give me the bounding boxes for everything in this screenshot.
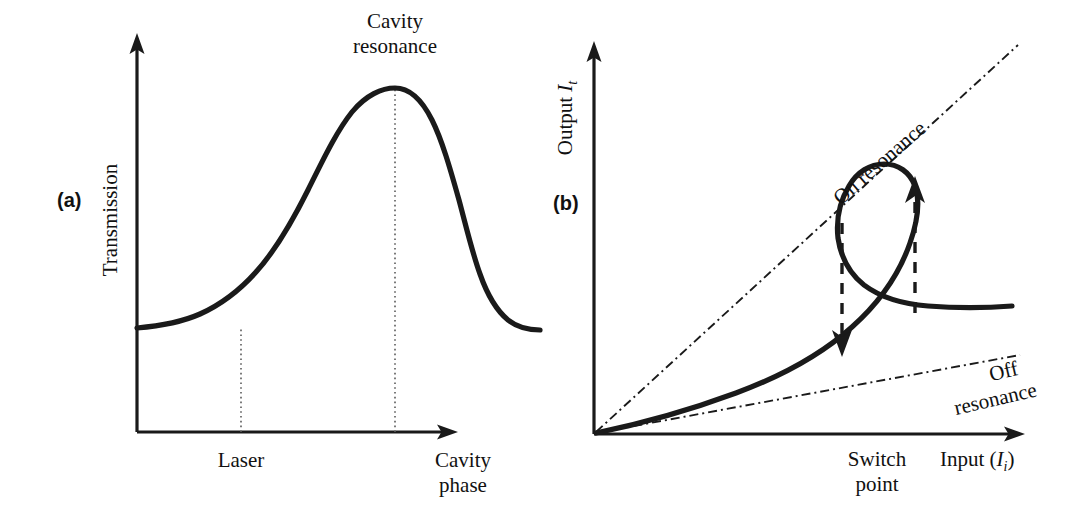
panel-b-y-axis-label: Output It	[553, 80, 580, 156]
panel-b-x-axis-label: Input (Ii)	[940, 447, 1014, 474]
panel-a-marker-laser-label: Laser	[218, 448, 265, 472]
panel-b: (b) Output It On resonance Off resonance…	[553, 41, 1039, 496]
panel-b-switch-point-label-line2: point	[855, 472, 898, 496]
panel-a-transmission-curve	[137, 88, 540, 330]
svg-text:Output It: Output It	[553, 80, 580, 156]
panel-b-on-resonance-reference-line	[596, 45, 1018, 432]
panel-a-x-axis-label-line1: Cavity	[435, 448, 491, 472]
panel-a-x-axis-label-line2: phase	[439, 473, 487, 497]
panel-b-tag: (b)	[553, 192, 579, 214]
panel-b-y-axis-label-subscript: t	[565, 80, 580, 85]
panel-a-tag: (a)	[57, 189, 81, 211]
panel-a-annotation-line1: Cavity	[367, 9, 423, 33]
panel-b-off-resonance-label: Off resonance	[946, 353, 1039, 420]
panel-b-x-axis-label-close: )	[1007, 447, 1014, 471]
panel-b-y-axis-label-text: Output	[553, 97, 577, 156]
panel-b-off-resonance-reference-line	[596, 355, 1020, 433]
panel-a-annotation-line2: resonance	[353, 34, 437, 58]
panel-a: (a) Transmission Cavity resonance Laser …	[57, 9, 540, 497]
panel-b-up-switch-arrow-head	[905, 176, 925, 203]
panel-b-switch-point-label-line1: Switch	[848, 447, 907, 471]
panel-a-y-axis-label: Transmission	[98, 163, 122, 276]
figure-root: (a) Transmission Cavity resonance Laser …	[0, 0, 1068, 513]
figure-svg: (a) Transmission Cavity resonance Laser …	[0, 0, 1068, 513]
panel-b-bistability-curve	[596, 164, 1012, 433]
panel-b-x-axis-label-text: Input (	[940, 447, 997, 471]
